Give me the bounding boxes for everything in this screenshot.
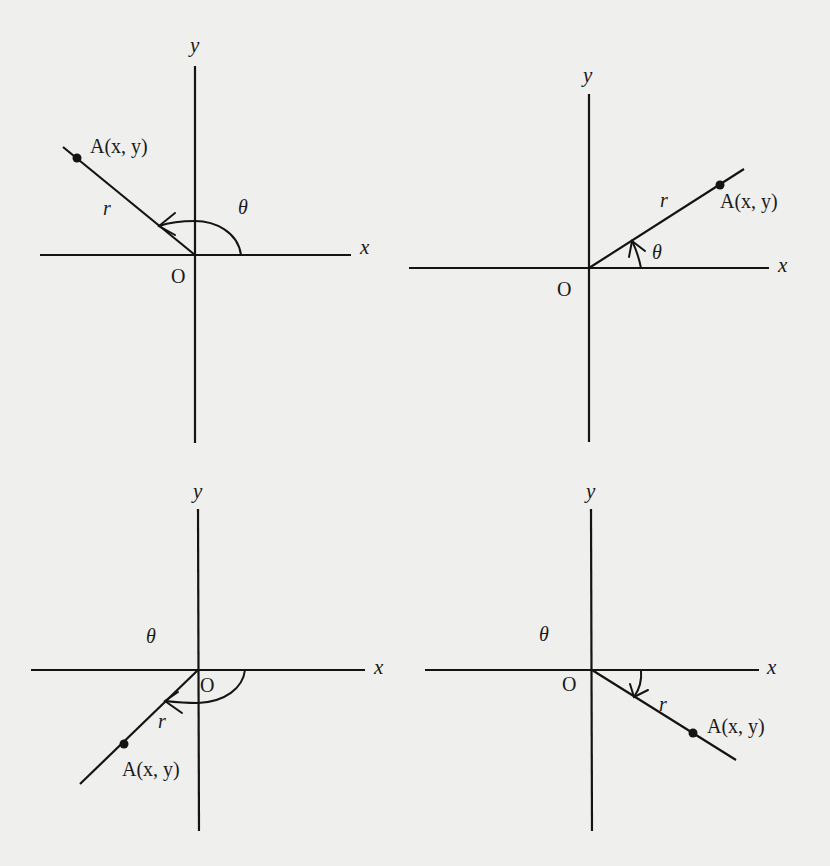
radius-label: r <box>660 189 668 211</box>
angle-label: θ <box>146 625 156 647</box>
point-label: A(x, y) <box>707 715 765 738</box>
angle-label: θ <box>652 241 662 263</box>
y-axis <box>198 509 199 831</box>
point-label: A(x, y) <box>122 758 180 781</box>
figure-canvas: x y O r θ A(x, y) x y O r θ A(x, y) x y … <box>0 0 830 866</box>
panel-2: x y O r θ A(x, y) <box>409 63 788 442</box>
radius-label: r <box>158 710 166 732</box>
panel-4: x y O r θ A(x, y) <box>425 479 777 831</box>
origin-label: O <box>171 265 185 287</box>
y-axis <box>591 509 592 831</box>
y-axis-label: y <box>581 63 593 87</box>
radius-ray <box>63 147 195 255</box>
point-a <box>689 729 698 738</box>
y-axis-label: y <box>584 479 596 503</box>
angle-label: θ <box>238 196 248 218</box>
point-label: A(x, y) <box>720 190 778 213</box>
point-a <box>120 740 129 749</box>
radius-label: r <box>659 693 667 715</box>
point-a <box>716 181 725 190</box>
x-axis-label: x <box>777 253 788 277</box>
origin-label: O <box>557 278 571 300</box>
origin-label: O <box>200 674 214 696</box>
x-axis-label: x <box>373 655 384 679</box>
origin-label: O <box>562 673 576 695</box>
panel-1: x y O r θ A(x, y) <box>40 33 370 443</box>
point-a <box>73 154 82 163</box>
radius-label: r <box>103 197 111 219</box>
point-label: A(x, y) <box>90 135 148 158</box>
angle-arc <box>159 221 241 255</box>
x-axis-label: x <box>766 655 777 679</box>
panel-3: x y O r θ A(x, y) <box>31 479 384 831</box>
y-axis-label: y <box>191 479 203 503</box>
y-axis-label: y <box>188 33 200 57</box>
angle-label: θ <box>539 623 549 645</box>
x-axis-label: x <box>359 235 370 259</box>
